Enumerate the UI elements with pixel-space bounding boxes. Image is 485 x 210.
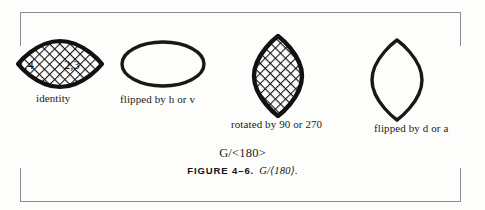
quotient-group-formula: G/<180> bbox=[0, 146, 485, 161]
crop-mark-top-right bbox=[441, 12, 485, 46]
figure-page: 1,4 2,3 identity flipped by h or v rotat… bbox=[0, 0, 485, 210]
caption-rotated: rotated by 90 or 270 bbox=[231, 118, 322, 130]
vertex-label-right: 2,3 bbox=[64, 59, 80, 72]
shape-rotated-lens bbox=[250, 32, 306, 120]
figure-number: FIGURE 4–6. bbox=[187, 165, 254, 176]
caption-flipped-hv: flipped by h or v bbox=[120, 93, 195, 105]
shape-flipped-hv-ellipse bbox=[118, 38, 208, 90]
caption-flipped-da: flipped by d or a bbox=[374, 122, 448, 134]
caption-identity: identity bbox=[36, 92, 70, 104]
vertex-label-left: 1,4 bbox=[18, 59, 34, 72]
crop-mark-right-rule bbox=[460, 12, 461, 46]
crop-mark-bottom-rule bbox=[20, 201, 460, 202]
figure-expression: G/⟨180⟩. bbox=[259, 165, 298, 176]
shape-flipped-da-lens bbox=[368, 36, 426, 124]
crop-mark-top-rule bbox=[20, 12, 460, 13]
figure-caption: FIGURE 4–6.G/⟨180⟩. bbox=[0, 164, 485, 176]
figure-caption-block: G/<180> FIGURE 4–6.G/⟨180⟩. bbox=[0, 146, 485, 176]
